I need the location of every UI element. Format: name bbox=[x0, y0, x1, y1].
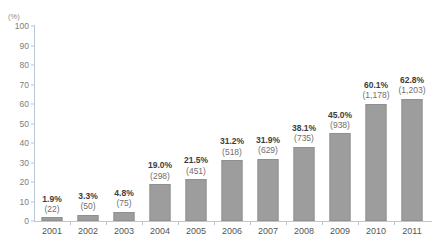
bar-percent-label: 45.0% bbox=[328, 110, 352, 120]
x-axis-tick-mark bbox=[322, 221, 323, 225]
bar-count-label: (1,178) bbox=[363, 90, 390, 100]
bar bbox=[42, 217, 63, 221]
bar-value-label-group: 21.5%(451) bbox=[184, 155, 208, 176]
bar-group: 60.1%(1,178) bbox=[358, 26, 394, 221]
bar-count-label: (451) bbox=[184, 166, 208, 176]
x-axis-tick-mark bbox=[286, 221, 287, 225]
x-axis-category-label: 2009 bbox=[330, 226, 350, 236]
bar-value-label-group: 4.8%(75) bbox=[114, 188, 133, 209]
bar bbox=[186, 179, 207, 221]
x-axis-tick-mark bbox=[178, 221, 179, 225]
bar-group: 21.5%(451) bbox=[178, 26, 214, 221]
bar-value-label-group: 19.0%(298) bbox=[148, 160, 172, 181]
bar-percent-label: 1.9% bbox=[42, 194, 61, 204]
x-axis-tick-mark bbox=[358, 221, 359, 225]
bar-value-label-group: 38.1%(735) bbox=[292, 123, 316, 144]
y-axis-unit-label: (%) bbox=[8, 12, 20, 21]
bar-group: 45.0%(938) bbox=[322, 26, 358, 221]
bar-chart: (%) 10090807060504030201001.9%(22)3.3%(5… bbox=[0, 0, 440, 252]
bar-group: 62.8%(1,203) bbox=[394, 26, 430, 221]
x-axis-tick-mark bbox=[394, 221, 395, 225]
x-axis-category-label: 2007 bbox=[258, 226, 278, 236]
bar-group: 31.2%(518) bbox=[214, 26, 250, 221]
bar bbox=[258, 159, 279, 221]
bar bbox=[402, 99, 423, 221]
x-axis-tick-mark bbox=[70, 221, 71, 225]
bar-value-label-group: 3.3%(50) bbox=[78, 191, 97, 212]
x-axis-category-label: 2006 bbox=[222, 226, 242, 236]
x-axis-category-label: 2003 bbox=[114, 226, 134, 236]
bar-percent-label: 21.5% bbox=[184, 155, 208, 165]
x-axis-category-label: 2008 bbox=[294, 226, 314, 236]
x-axis-tick-mark bbox=[250, 221, 251, 225]
bar-percent-label: 31.2% bbox=[220, 136, 244, 146]
bar-count-label: (1,203) bbox=[399, 85, 426, 95]
bar-value-label-group: 1.9%(22) bbox=[42, 194, 61, 215]
bar-count-label: (629) bbox=[256, 145, 280, 155]
bar-percent-label: 19.0% bbox=[148, 160, 172, 170]
bar-value-label-group: 60.1%(1,178) bbox=[363, 80, 390, 101]
bar-group: 4.8%(75) bbox=[106, 26, 142, 221]
bar-group: 3.3%(50) bbox=[70, 26, 106, 221]
bar-percent-label: 31.9% bbox=[256, 135, 280, 145]
bar-value-label-group: 31.9%(629) bbox=[256, 135, 280, 156]
x-axis-category-label: 2001 bbox=[42, 226, 62, 236]
x-axis-category-label: 2002 bbox=[78, 226, 98, 236]
bar-group: 31.9%(629) bbox=[250, 26, 286, 221]
bar-count-label: (22) bbox=[42, 204, 61, 214]
bar-percent-label: 60.1% bbox=[363, 80, 390, 90]
bar-count-label: (50) bbox=[78, 201, 97, 211]
bar-value-label-group: 45.0%(938) bbox=[328, 110, 352, 131]
bar bbox=[150, 184, 171, 221]
bar bbox=[78, 215, 99, 221]
bar-count-label: (298) bbox=[148, 171, 172, 181]
bar-value-label-group: 31.2%(518) bbox=[220, 136, 244, 157]
x-axis-line bbox=[34, 221, 432, 222]
bar-percent-label: 3.3% bbox=[78, 191, 97, 201]
bar-percent-label: 38.1% bbox=[292, 123, 316, 133]
bar-percent-label: 62.8% bbox=[399, 75, 426, 85]
bar-count-label: (735) bbox=[292, 133, 316, 143]
plot-area: 10090807060504030201001.9%(22)3.3%(50)4.… bbox=[34, 26, 430, 221]
bar-percent-label: 4.8% bbox=[114, 188, 133, 198]
bar bbox=[114, 212, 135, 221]
x-axis-category-label: 2004 bbox=[150, 226, 170, 236]
bar-count-label: (518) bbox=[220, 147, 244, 157]
bar bbox=[366, 104, 387, 221]
x-axis-tick-mark bbox=[106, 221, 107, 225]
bar-count-label: (938) bbox=[328, 120, 352, 130]
x-axis-category-label: 2005 bbox=[186, 226, 206, 236]
bar-group: 1.9%(22) bbox=[34, 26, 70, 221]
bar-value-label-group: 62.8%(1,203) bbox=[399, 75, 426, 96]
bar-count-label: (75) bbox=[114, 198, 133, 208]
x-axis-category-label: 2011 bbox=[402, 226, 421, 236]
x-axis-tick-mark bbox=[214, 221, 215, 225]
x-axis-category-label: 2010 bbox=[366, 226, 386, 236]
bar bbox=[330, 133, 351, 221]
bar bbox=[294, 147, 315, 221]
bar-group: 38.1%(735) bbox=[286, 26, 322, 221]
bar-group: 19.0%(298) bbox=[142, 26, 178, 221]
bar bbox=[222, 160, 243, 221]
x-axis-tick-mark bbox=[142, 221, 143, 225]
